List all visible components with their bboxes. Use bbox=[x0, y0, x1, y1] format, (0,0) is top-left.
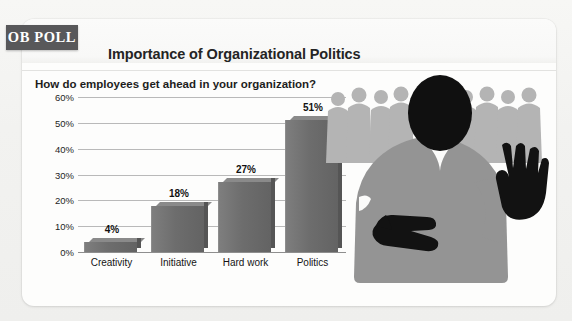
bar-value-label: 27% bbox=[218, 164, 274, 175]
bar-column[interactable]: 27% bbox=[218, 97, 274, 252]
bar-side-face bbox=[271, 178, 275, 248]
bar-series: 4%18%27%51% bbox=[78, 97, 346, 252]
bar-value-label: 4% bbox=[84, 224, 140, 235]
y-axis-tick-label: 0% bbox=[34, 247, 74, 258]
figure-head bbox=[408, 75, 472, 151]
businessman-crossed-fingers-illustration bbox=[326, 75, 554, 305]
y-axis-tick-label: 60% bbox=[34, 92, 74, 103]
bar[interactable] bbox=[84, 242, 137, 252]
x-axis: CreativityInitiativeHard workPolitics bbox=[78, 257, 346, 275]
bar-column[interactable]: 18% bbox=[151, 97, 207, 252]
bar-side-face bbox=[204, 202, 208, 249]
page-background: Importance of Organizational Politics Ho… bbox=[0, 0, 572, 321]
y-axis: 60%50%40%30%20%10%0% bbox=[30, 97, 74, 252]
y-axis-tick-label: 30% bbox=[34, 169, 74, 180]
ob-poll-badge: OB POLL bbox=[6, 25, 78, 50]
x-axis-tick-label: Initiative bbox=[145, 257, 213, 268]
ob-poll-badge-label: OB POLL bbox=[8, 29, 76, 46]
y-axis-tick-label: 50% bbox=[34, 117, 74, 128]
bar[interactable] bbox=[151, 206, 204, 253]
figure-suit bbox=[354, 137, 508, 283]
bar-side-face bbox=[137, 238, 141, 248]
x-axis-tick-label: Hard work bbox=[212, 257, 280, 268]
y-axis-tick-label: 20% bbox=[34, 195, 74, 206]
bar-value-label: 18% bbox=[151, 188, 207, 199]
y-axis-tick-label: 40% bbox=[34, 143, 74, 154]
ob-poll-card: Importance of Organizational Politics Ho… bbox=[22, 19, 556, 306]
bar-chart: 60%50%40%30%20%10%0% 4%18%27%51% Creativ… bbox=[30, 97, 350, 297]
title-divider bbox=[22, 70, 556, 71]
bar-column[interactable]: 4% bbox=[84, 97, 140, 252]
x-axis-tick-label: Creativity bbox=[78, 257, 146, 268]
poll-question: How do employees get ahead in your organ… bbox=[35, 78, 316, 90]
y-axis-tick-label: 10% bbox=[34, 221, 74, 232]
x-axis-baseline bbox=[78, 252, 346, 253]
page-title: Importance of Organizational Politics bbox=[108, 46, 361, 62]
bar[interactable] bbox=[218, 182, 271, 252]
